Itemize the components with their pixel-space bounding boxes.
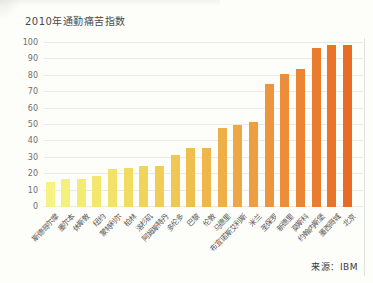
scan-corner-smudge bbox=[0, 0, 22, 18]
chart-title: 2010年通勤痛苦指数 bbox=[25, 13, 126, 28]
scan-edge-shading bbox=[0, 0, 220, 6]
gridline-100 bbox=[44, 42, 363, 43]
bar-布宜诺斯艾利斯 bbox=[233, 125, 242, 207]
bar-阿姆斯特丹 bbox=[155, 166, 164, 207]
bar-蒙特利尔 bbox=[108, 169, 117, 207]
y-tick-label-40: 40 bbox=[0, 136, 38, 146]
bar-马德里 bbox=[218, 128, 227, 207]
y-tick-label-30: 30 bbox=[0, 153, 38, 163]
bar-洛杉矶 bbox=[139, 166, 148, 207]
y-tick-label-10: 10 bbox=[0, 186, 38, 196]
y-tick-label-50: 50 bbox=[0, 120, 38, 130]
y-tick-label-60: 60 bbox=[0, 104, 38, 114]
source-label: 来源：IBM bbox=[311, 260, 358, 273]
bar-北京 bbox=[343, 45, 352, 207]
bar-米兰 bbox=[249, 122, 258, 207]
bar-墨西哥城 bbox=[327, 45, 336, 207]
y-tick-label-100: 100 bbox=[0, 38, 38, 48]
bar-圣保罗 bbox=[265, 84, 274, 207]
plot-area bbox=[44, 43, 363, 207]
y-tick-label-70: 70 bbox=[0, 87, 38, 97]
bar-斯德哥尔摩 bbox=[46, 182, 55, 207]
page-edge-line bbox=[364, 38, 365, 276]
bar-约翰内斯堡 bbox=[312, 48, 321, 207]
bar-多伦多 bbox=[171, 155, 180, 207]
bar-休斯敦 bbox=[77, 179, 86, 207]
bar-纽约 bbox=[92, 176, 101, 207]
bar-柏林 bbox=[124, 168, 133, 207]
bar-巴黎 bbox=[186, 148, 195, 207]
commuter-pain-chart: 2010年通勤痛苦指数 来源：IBM 010203040506070809010… bbox=[0, 0, 373, 283]
bar-墨尔本 bbox=[61, 179, 70, 207]
y-tick-label-20: 20 bbox=[0, 169, 38, 179]
bar-新德里 bbox=[280, 74, 289, 207]
y-tick-label-80: 80 bbox=[0, 71, 38, 81]
x-tick-label-巴黎: 巴黎 bbox=[184, 211, 202, 229]
bar-莫斯科 bbox=[296, 69, 305, 207]
y-tick-label-0: 0 bbox=[0, 202, 38, 212]
y-tick-label-90: 90 bbox=[0, 54, 38, 64]
bar-伦敦 bbox=[202, 148, 211, 207]
x-tick-label-北京: 北京 bbox=[340, 211, 358, 229]
